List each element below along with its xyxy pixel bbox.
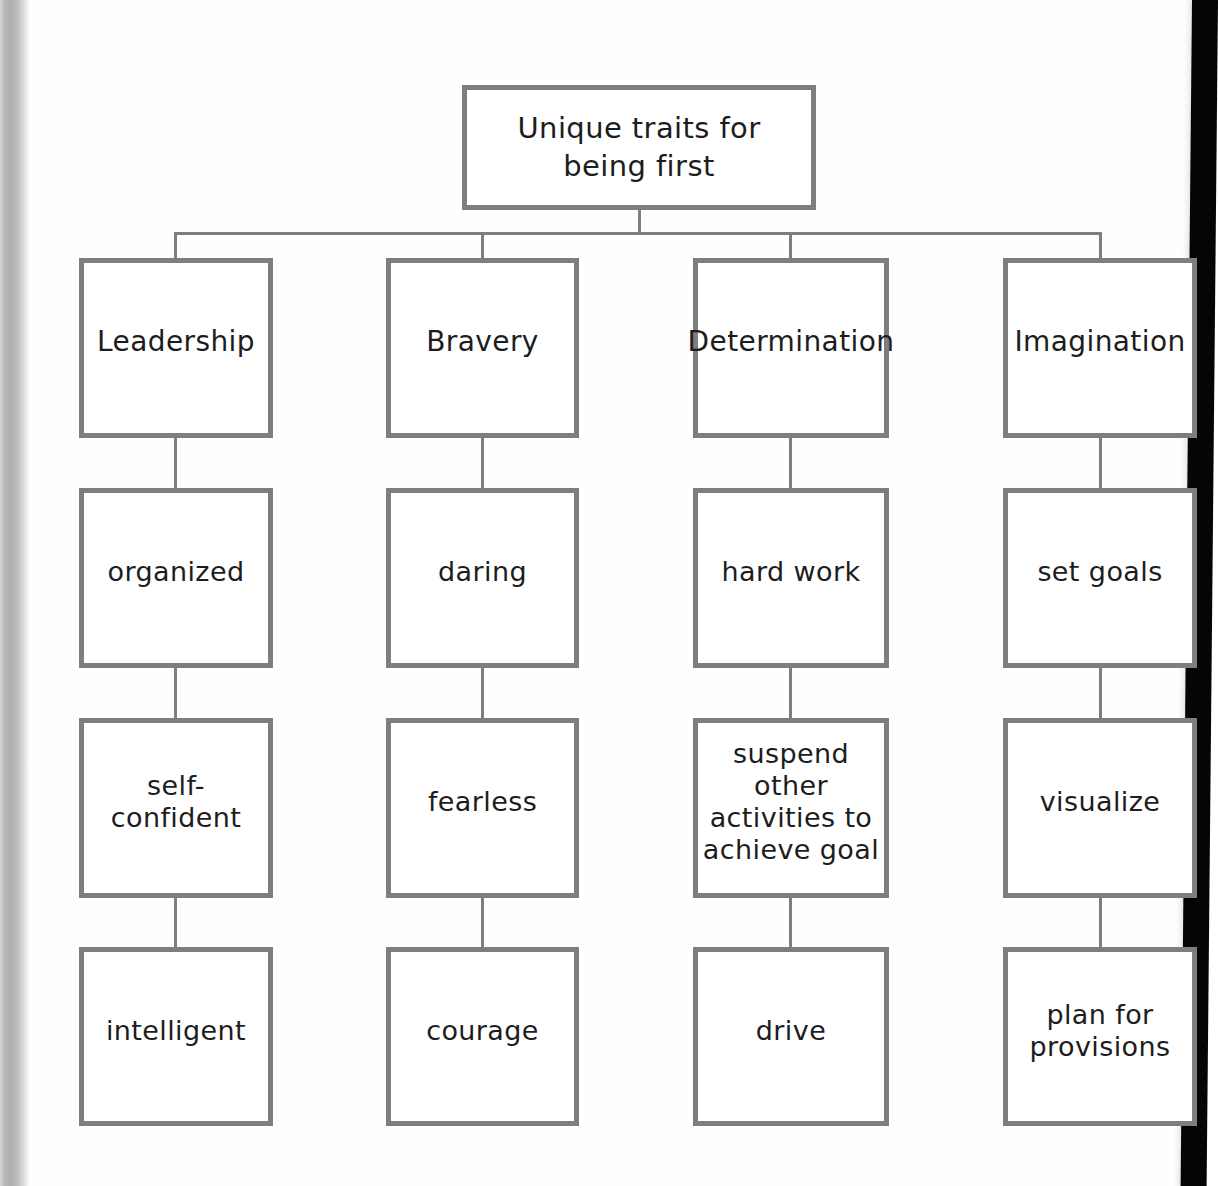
node-label: self- confident (111, 770, 242, 834)
branch-heading-label: Bravery (426, 325, 539, 358)
branch-2-item-2[interactable]: drive (693, 947, 889, 1126)
branch-0-item-1[interactable]: self- confident (79, 718, 273, 898)
tree-diagram: Unique traits for being first Leadership… (0, 0, 1218, 1186)
branch-heading-imagination[interactable]: Imagination (1003, 258, 1197, 438)
connector-bus-to-branch-0 (174, 232, 177, 260)
branch-3-item-0[interactable]: set goals (1003, 488, 1197, 668)
branch-2-item-1[interactable]: suspend other activities to achieve goal (693, 718, 889, 898)
branch-heading-label: Imagination (1014, 325, 1185, 358)
branch-1-item-2[interactable]: courage (386, 947, 579, 1126)
connector-branch-0-link-0 (174, 436, 177, 490)
branch-heading-determination[interactable]: Determination (693, 258, 889, 438)
connector-horizontal-bus (174, 232, 1102, 235)
scanned-page: Unique traits for being first Leadership… (0, 0, 1218, 1186)
node-label: organized (108, 556, 245, 588)
branch-1-item-0[interactable]: daring (386, 488, 579, 668)
node-label: plan for provisions (1030, 999, 1171, 1063)
connector-branch-1-link-1 (481, 666, 484, 720)
node-label: fearless (428, 786, 537, 818)
branch-heading-leadership[interactable]: Leadership (79, 258, 273, 438)
branch-heading-bravery[interactable]: Bravery (386, 258, 579, 438)
connector-branch-0-link-1 (174, 666, 177, 720)
connector-bus-to-branch-3 (1099, 232, 1102, 260)
connector-root-stem (638, 209, 641, 234)
connector-branch-1-link-0 (481, 436, 484, 490)
branch-3-item-1[interactable]: visualize (1003, 718, 1197, 898)
node-label: intelligent (106, 1015, 246, 1047)
root-node[interactable]: Unique traits for being first (462, 85, 816, 210)
connector-branch-0-link-2 (174, 896, 177, 949)
branch-heading-label: Determination (688, 325, 895, 358)
branch-2-item-0[interactable]: hard work (693, 488, 889, 668)
node-label: suspend other activities to achieve goal (703, 738, 879, 865)
connector-bus-to-branch-1 (481, 232, 484, 260)
node-label: daring (438, 556, 527, 588)
connector-branch-1-link-2 (481, 896, 484, 949)
branch-0-item-2[interactable]: intelligent (79, 947, 273, 1126)
connector-branch-2-link-1 (789, 666, 792, 720)
connector-branch-2-link-0 (789, 436, 792, 490)
node-label: hard work (722, 556, 861, 588)
root-node-label: Unique traits for being first (517, 110, 760, 185)
node-label: drive (756, 1015, 826, 1047)
node-label: visualize (1040, 786, 1161, 818)
connector-branch-2-link-2 (789, 896, 792, 949)
branch-3-item-2[interactable]: plan for provisions (1003, 947, 1197, 1126)
node-label: set goals (1037, 556, 1162, 588)
branch-0-item-0[interactable]: organized (79, 488, 273, 668)
connector-branch-3-link-1 (1099, 666, 1102, 720)
connector-bus-to-branch-2 (789, 232, 792, 260)
node-label: courage (426, 1015, 539, 1047)
branch-heading-label: Leadership (97, 325, 255, 358)
branch-1-item-1[interactable]: fearless (386, 718, 579, 898)
connector-branch-3-link-0 (1099, 436, 1102, 490)
connector-branch-3-link-2 (1099, 896, 1102, 949)
